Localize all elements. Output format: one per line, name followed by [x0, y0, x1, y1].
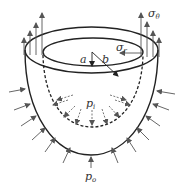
label-p-o-text: p: [85, 170, 92, 183]
shell-diagram: a b σr σθ pi po: [0, 0, 183, 188]
label-sigma-r-text: σ: [116, 41, 124, 54]
label-p-o-sub: o: [92, 176, 96, 184]
label-sigma-r-sub: r: [124, 47, 127, 55]
label-a: a: [80, 54, 87, 65]
label-sigma-theta-text: σ: [148, 7, 156, 20]
label-sigma-theta-sub: θ: [156, 13, 160, 21]
diagram-svg: [0, 0, 183, 188]
label-a-text: a: [80, 53, 87, 66]
label-b: b: [102, 54, 109, 65]
label-p-o: po: [85, 171, 96, 184]
label-p-i-sub: i: [93, 103, 95, 111]
label-p-i-text: p: [86, 97, 93, 110]
label-b-text: b: [102, 53, 109, 66]
label-sigma-theta: σθ: [148, 8, 160, 21]
label-sigma-r: σr: [116, 42, 127, 55]
label-p-i: pi: [86, 98, 95, 111]
inner-rim-ellipse: [43, 38, 143, 66]
hoop-stress-arrows-left: [24, 13, 42, 55]
